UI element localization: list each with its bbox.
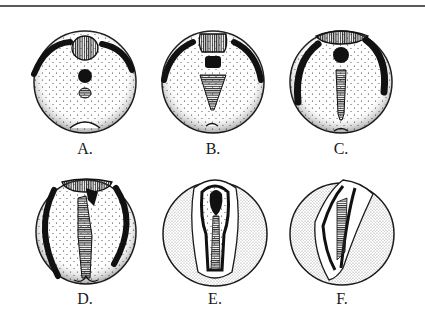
panel-label-e: E. — [150, 290, 280, 308]
embryo-f-drawing — [277, 172, 407, 287]
panel-label-c: C. — [276, 140, 406, 158]
embryo-e-drawing — [150, 172, 280, 287]
panel-b: B. — [148, 22, 278, 162]
panel-label-b: B. — [148, 140, 278, 158]
panel-label-a: A. — [20, 140, 150, 158]
top-rule — [0, 5, 425, 7]
embryo-b-drawing — [148, 22, 278, 137]
panel-label-f: F. — [277, 290, 407, 308]
embryo-d-drawing — [20, 172, 150, 287]
panel-e: E. — [150, 172, 280, 312]
panel-label-d: D. — [20, 290, 150, 308]
panel-d: D. — [20, 172, 150, 312]
embryo-c-drawing — [276, 22, 406, 137]
panel-a: A. — [20, 22, 150, 162]
embryo-a-drawing — [20, 22, 150, 137]
panel-c: C. — [276, 22, 406, 162]
panel-f: F. — [277, 172, 407, 312]
